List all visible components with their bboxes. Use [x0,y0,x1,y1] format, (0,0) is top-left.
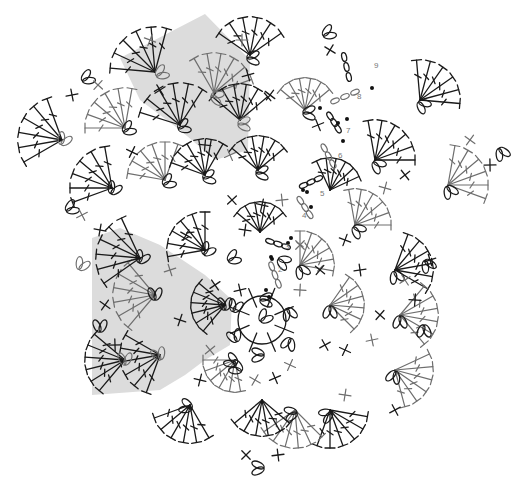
chain-loop [251,346,265,363]
sc-cross [339,389,351,401]
sc-cross [239,224,251,236]
round-start-dot [336,121,340,125]
sc-cross [272,449,284,461]
chain-loop [282,404,299,424]
round-start-dot [301,188,305,192]
sc-cross [315,265,324,274]
sc-cross [484,159,496,171]
sc-cross [375,310,384,319]
round-start-dot [267,295,271,299]
chain-loop [196,239,219,261]
round-start-dot [264,288,268,292]
sc-cross [276,194,288,206]
dc-fan [153,405,214,443]
sc-cross [379,182,391,194]
round-number-6: 6 [338,151,343,160]
chain-loop [273,251,294,273]
round-number-9: 9 [374,61,379,70]
chain-stitches [265,52,360,289]
sc-cross [366,334,378,346]
sc-cross [400,170,409,179]
chain-loop [259,291,273,308]
sc-cross [269,372,280,383]
center-ring-circle [238,296,286,344]
chain-loop [77,67,98,89]
chain-loop [321,305,338,319]
dc-fan [344,189,391,230]
sc-cross [325,45,335,55]
chain-loop [391,315,408,329]
chain-loop [318,22,339,44]
chain-loop [71,254,93,275]
sc-cross [228,196,237,205]
sc-cross [66,89,78,101]
round-start-dot [309,205,313,209]
sc-cross [465,135,475,145]
sc-cross [390,405,401,416]
chain-segment [299,175,324,190]
chain-loop [278,334,299,354]
sc-cross [94,81,103,90]
round-number-2: 2 [278,265,283,274]
chain-loop [251,459,265,476]
crochet-diagram: 23456789 [0,0,521,491]
sc-cross [320,340,330,350]
round-number-4: 4 [302,211,307,220]
sc-cross [234,284,246,296]
chain-segment [330,88,360,105]
round-start-dot [341,139,345,143]
round-number-8: 8 [357,92,362,101]
chain-loop [491,143,513,164]
round-start-dot [269,255,273,259]
dc-fan [312,158,361,190]
sc-cross [256,199,268,211]
left-sector [92,228,232,395]
dc-fan [234,202,286,232]
sc-cross [250,375,260,385]
sc-cross [127,147,138,158]
dc-fan [277,78,332,110]
sc-cross [339,234,350,245]
dc-fan [127,142,183,180]
chain-loop [254,306,276,328]
chain-loop [223,247,244,269]
round-start-dot [370,86,374,90]
round-number-7: 7 [346,126,351,135]
round-start-dot [289,236,293,240]
sc-cross [354,264,366,276]
dc-fan [395,349,433,408]
dc-fan [18,97,62,166]
dc-fan [231,400,293,436]
chain-segment [341,52,352,82]
sc-cross [294,284,306,296]
sc-cross [312,119,323,130]
round-start-dot [318,106,322,110]
sc-cross [340,345,351,356]
dc-fan [70,146,112,207]
sc-cross [285,360,296,371]
dc-fan [330,274,364,332]
sc-cross [242,451,251,460]
dc-fan [363,120,415,165]
sc-cross [194,374,206,386]
dc-fan [85,88,137,133]
round-start-dot [345,117,349,121]
round-number-3: 3 [285,242,290,251]
chain-loop [158,171,179,193]
round-number-5: 5 [320,189,325,198]
round-start-dot [305,190,309,194]
dc-fan [295,231,334,276]
